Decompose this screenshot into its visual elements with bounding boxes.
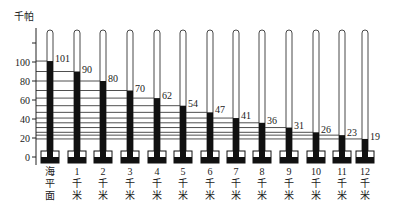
category-label: 米 bbox=[72, 189, 82, 201]
value-label: 31 bbox=[294, 120, 304, 131]
barometer-tube: 70 bbox=[121, 30, 145, 163]
category-label: 米 bbox=[205, 189, 215, 201]
category-labels: 海平面1千米2千米3千米4千米5千米6千米7千米8千米9千米10千米11千米12… bbox=[45, 165, 370, 201]
barometer-tube: 54 bbox=[174, 30, 198, 163]
value-label: 36 bbox=[267, 115, 277, 126]
category-label: 6 bbox=[208, 166, 213, 177]
category-label: 米 bbox=[337, 189, 347, 201]
category-label: 千 bbox=[72, 178, 82, 189]
category-label: 千 bbox=[152, 178, 162, 189]
category-label: 千 bbox=[125, 178, 135, 189]
category-label: 5 bbox=[181, 166, 186, 177]
category-label: 千 bbox=[360, 178, 370, 189]
y-axis: 千帕020406080100 bbox=[14, 10, 36, 165]
y-tick-label: 100 bbox=[15, 57, 30, 68]
category-label: 千 bbox=[284, 178, 294, 189]
barometer-tube: 47 bbox=[201, 30, 225, 163]
value-label: 101 bbox=[55, 53, 70, 64]
barometer-tubes: 101908070625447413631262319 bbox=[41, 30, 380, 163]
value-label: 47 bbox=[215, 104, 225, 115]
category-label: 千 bbox=[178, 178, 188, 189]
chart-canvas: 千帕020406080100 1019080706254474136312623… bbox=[0, 0, 393, 210]
value-label: 80 bbox=[108, 73, 118, 84]
mercury-column bbox=[127, 91, 133, 160]
category-label: 米 bbox=[284, 189, 294, 201]
category-label: 千 bbox=[98, 178, 108, 189]
category-label: 2 bbox=[101, 166, 106, 177]
barometer-tube: 26 bbox=[307, 30, 331, 163]
value-label: 70 bbox=[135, 83, 145, 94]
category-label: 米 bbox=[311, 189, 321, 201]
category-label: 千 bbox=[231, 178, 241, 189]
value-label: 23 bbox=[347, 127, 357, 138]
category-label: 米 bbox=[98, 189, 108, 201]
mercury-column bbox=[74, 72, 80, 160]
barometer-tube: 19 bbox=[356, 30, 380, 163]
pressure-altitude-diagram: 千帕020406080100 1019080706254474136312623… bbox=[0, 0, 393, 210]
category-label: 米 bbox=[125, 189, 135, 201]
category-label: 米 bbox=[360, 189, 370, 201]
barometer-tube: 36 bbox=[253, 30, 277, 163]
barometer-tube: 80 bbox=[94, 30, 118, 163]
barometer-tube: 23 bbox=[333, 30, 357, 163]
mercury-column bbox=[100, 81, 106, 159]
category-label: 3 bbox=[128, 166, 133, 177]
barometer-tube: 62 bbox=[148, 30, 172, 163]
category-label: 千 bbox=[257, 178, 267, 189]
category-label: 海 bbox=[45, 165, 55, 177]
y-tick-label: 80 bbox=[20, 76, 30, 87]
category-label: 10 bbox=[311, 166, 321, 177]
barometer-tube: 31 bbox=[280, 30, 304, 163]
value-label: 54 bbox=[188, 98, 198, 109]
category-label: 千 bbox=[337, 178, 347, 189]
value-label: 19 bbox=[370, 131, 380, 142]
category-label: 9 bbox=[287, 166, 292, 177]
value-label: 26 bbox=[321, 124, 331, 135]
value-label: 41 bbox=[241, 110, 251, 121]
category-label: 7 bbox=[234, 166, 239, 177]
value-label: 62 bbox=[162, 90, 172, 101]
y-tick-label: 40 bbox=[20, 114, 30, 125]
category-label: 平 bbox=[45, 178, 55, 189]
category-label: 米 bbox=[152, 189, 162, 201]
value-label: 90 bbox=[82, 64, 92, 75]
mercury-column bbox=[47, 61, 53, 159]
category-label: 千 bbox=[205, 178, 215, 189]
category-label: 4 bbox=[155, 166, 160, 177]
y-axis-unit-label: 千帕 bbox=[14, 10, 34, 22]
y-tick-label: 20 bbox=[20, 133, 30, 144]
y-tick-label: 60 bbox=[20, 95, 30, 106]
category-label: 11 bbox=[337, 166, 347, 177]
barometer-tube: 41 bbox=[227, 30, 251, 163]
category-label: 米 bbox=[178, 189, 188, 201]
category-label: 1 bbox=[75, 166, 80, 177]
barometer-tube: 101 bbox=[41, 30, 70, 163]
mercury-column bbox=[154, 98, 160, 159]
y-tick-label: 0 bbox=[25, 152, 30, 163]
category-label: 米 bbox=[231, 189, 241, 201]
category-label: 12 bbox=[360, 166, 370, 177]
barometer-tube: 90 bbox=[68, 30, 92, 163]
category-label: 8 bbox=[260, 166, 265, 177]
category-label: 米 bbox=[257, 189, 267, 201]
category-label: 面 bbox=[45, 190, 55, 201]
category-label: 千 bbox=[311, 178, 321, 189]
